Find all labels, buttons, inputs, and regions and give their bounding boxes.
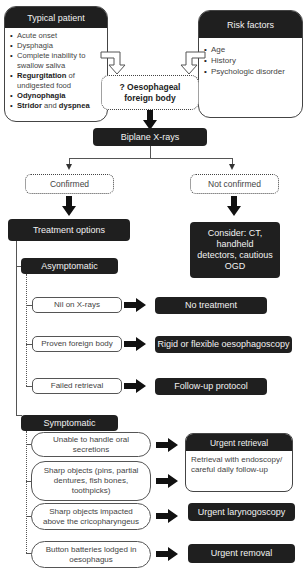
right-arrow-icon bbox=[156, 438, 178, 452]
action-urgent-laryngoscopy: Urgent larynogoscopy bbox=[188, 503, 295, 521]
suspected-foreign-body-box: ? Oesophageal foreign body bbox=[101, 75, 199, 110]
condition-sharp-above-cricopharyngeus: Sharp objects impacted above the cricoph… bbox=[31, 503, 151, 530]
dotted-connector bbox=[26, 431, 27, 553]
typical-patient-card: Typical patient Acute onset Dysphagia Co… bbox=[4, 6, 108, 122]
typical-patient-list: Acute onset Dysphagia Complete inability… bbox=[5, 28, 107, 111]
list-item: Acute onset bbox=[10, 31, 103, 41]
connector-line bbox=[150, 146, 151, 158]
symptomatic-box: Symptomatic bbox=[21, 415, 118, 431]
right-arrow-icon bbox=[124, 337, 146, 351]
list-item: Age bbox=[204, 44, 298, 55]
action-oesophagoscopy: Rigid or flexible oesophagoscopy bbox=[155, 336, 292, 353]
dotted-connector bbox=[26, 274, 27, 386]
condition-unable-handle-secretions: Unable to handle oral secretions bbox=[31, 432, 151, 457]
arrow-head-icon bbox=[229, 164, 235, 170]
hollow-arrow-right-icon bbox=[176, 50, 206, 76]
right-arrow-icon bbox=[156, 509, 178, 523]
right-arrow-icon bbox=[124, 379, 146, 393]
typical-patient-title: Typical patient bbox=[5, 7, 107, 28]
risk-factors-list: Age History Psychologic disorder bbox=[199, 38, 302, 78]
asymptomatic-box: Asymptomatic bbox=[21, 258, 118, 274]
list-item: Stridor and dyspnea bbox=[10, 101, 103, 111]
right-arrow-icon bbox=[124, 298, 146, 312]
risk-factors-card: Risk factors Age History Psychologic dis… bbox=[198, 10, 303, 118]
treatment-options-box: Treatment options bbox=[8, 219, 130, 241]
down-arrow-icon bbox=[62, 196, 76, 216]
list-item: History bbox=[204, 55, 298, 66]
down-arrow-icon bbox=[227, 196, 241, 216]
confirmed-box: Confirmed bbox=[25, 174, 114, 194]
connector-line bbox=[69, 158, 232, 159]
action-follow-up-protocol: Follow-up protocol bbox=[155, 378, 267, 395]
action-urgent-removal: Urgent removal bbox=[188, 544, 295, 563]
connector-line bbox=[16, 241, 17, 415]
urgent-retrieval-title: Urgent retrieval bbox=[186, 434, 292, 451]
down-arrow-icon bbox=[143, 110, 157, 130]
risk-factors-title: Risk factors bbox=[199, 11, 302, 38]
urgent-retrieval-body: Retrieval with endoscopy/ careful daily … bbox=[186, 451, 292, 476]
list-item: Psychologic disorder bbox=[204, 66, 298, 77]
condition-failed-retrieval: Failed retrieval bbox=[32, 378, 122, 394]
list-item: Complete inability to swallow saliva bbox=[10, 51, 103, 71]
condition-proven-foreign-body: Proven foreign body bbox=[32, 336, 122, 352]
list-item: Regurgitation of undigested food bbox=[10, 71, 103, 91]
arrow-head-icon bbox=[66, 164, 72, 170]
right-arrow-icon bbox=[156, 474, 178, 488]
urgent-retrieval-card: Urgent retrieval Retrieval with endoscop… bbox=[185, 433, 293, 492]
condition-button-batteries: Button batteries lodged in oesophagus bbox=[31, 541, 151, 568]
right-arrow-icon bbox=[156, 547, 178, 561]
biplane-xrays-box: Biplane X-rays bbox=[93, 128, 207, 146]
condition-sharp-objects: Sharp objects (pins, partial dentures, f… bbox=[31, 461, 151, 501]
condition-nil-on-xrays: Nil on X-rays bbox=[32, 297, 122, 313]
hollow-arrow-left-icon bbox=[100, 50, 130, 76]
action-no-treatment: No treatment bbox=[155, 297, 267, 314]
consider-box: Consider: CT, handheld detectors, cautio… bbox=[190, 222, 280, 278]
not-confirmed-box: Not confirmed bbox=[190, 174, 279, 194]
list-item: Dysphagia bbox=[10, 41, 103, 51]
list-item: Odynophagia bbox=[10, 91, 103, 101]
